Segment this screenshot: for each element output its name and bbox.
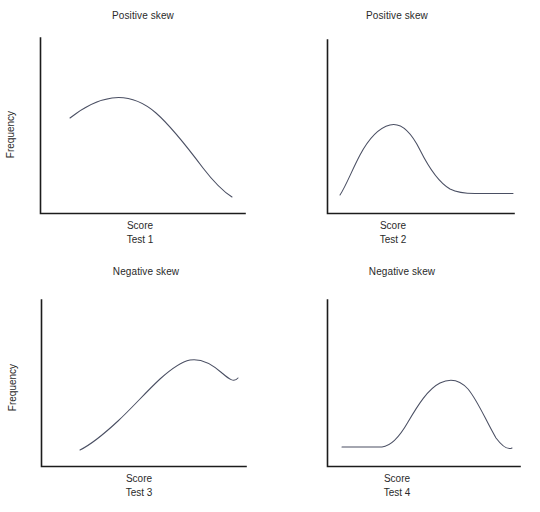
plot-area (270, 0, 540, 256)
x-axis-label: Score (5, 219, 275, 232)
axis-lines (328, 40, 515, 214)
distribution-curve (70, 98, 232, 197)
panel-caption: Test 3 (4, 486, 274, 499)
panel-caption: Test 1 (5, 233, 275, 246)
panel-caption: Test 2 (258, 233, 528, 246)
axis-lines (42, 300, 247, 467)
x-axis-label: Score (258, 219, 528, 232)
chart-panel-test-1: Positive skew Frequency Score Test 1 (0, 0, 270, 256)
axis-lines (41, 38, 246, 214)
distribution-curve (340, 125, 513, 195)
x-axis-label: Score (4, 472, 274, 485)
chart-panel-test-2: Positive skew Frequency Score Test 2 (270, 0, 540, 256)
distribution-curve (80, 360, 238, 450)
skew-distributions-figure: { "figure": { "background_color": "#ffff… (0, 0, 540, 512)
axis-lines (328, 300, 521, 467)
distribution-curve (342, 380, 512, 448)
chart-panel-test-4: Negative skew Frequency Score Test 4 (270, 256, 540, 512)
x-axis-label: Score (262, 472, 532, 485)
chart-panel-test-3: Negative skew Frequency Score Test 3 (0, 256, 270, 512)
plot-area (0, 0, 270, 256)
panel-caption: Test 4 (262, 486, 532, 499)
